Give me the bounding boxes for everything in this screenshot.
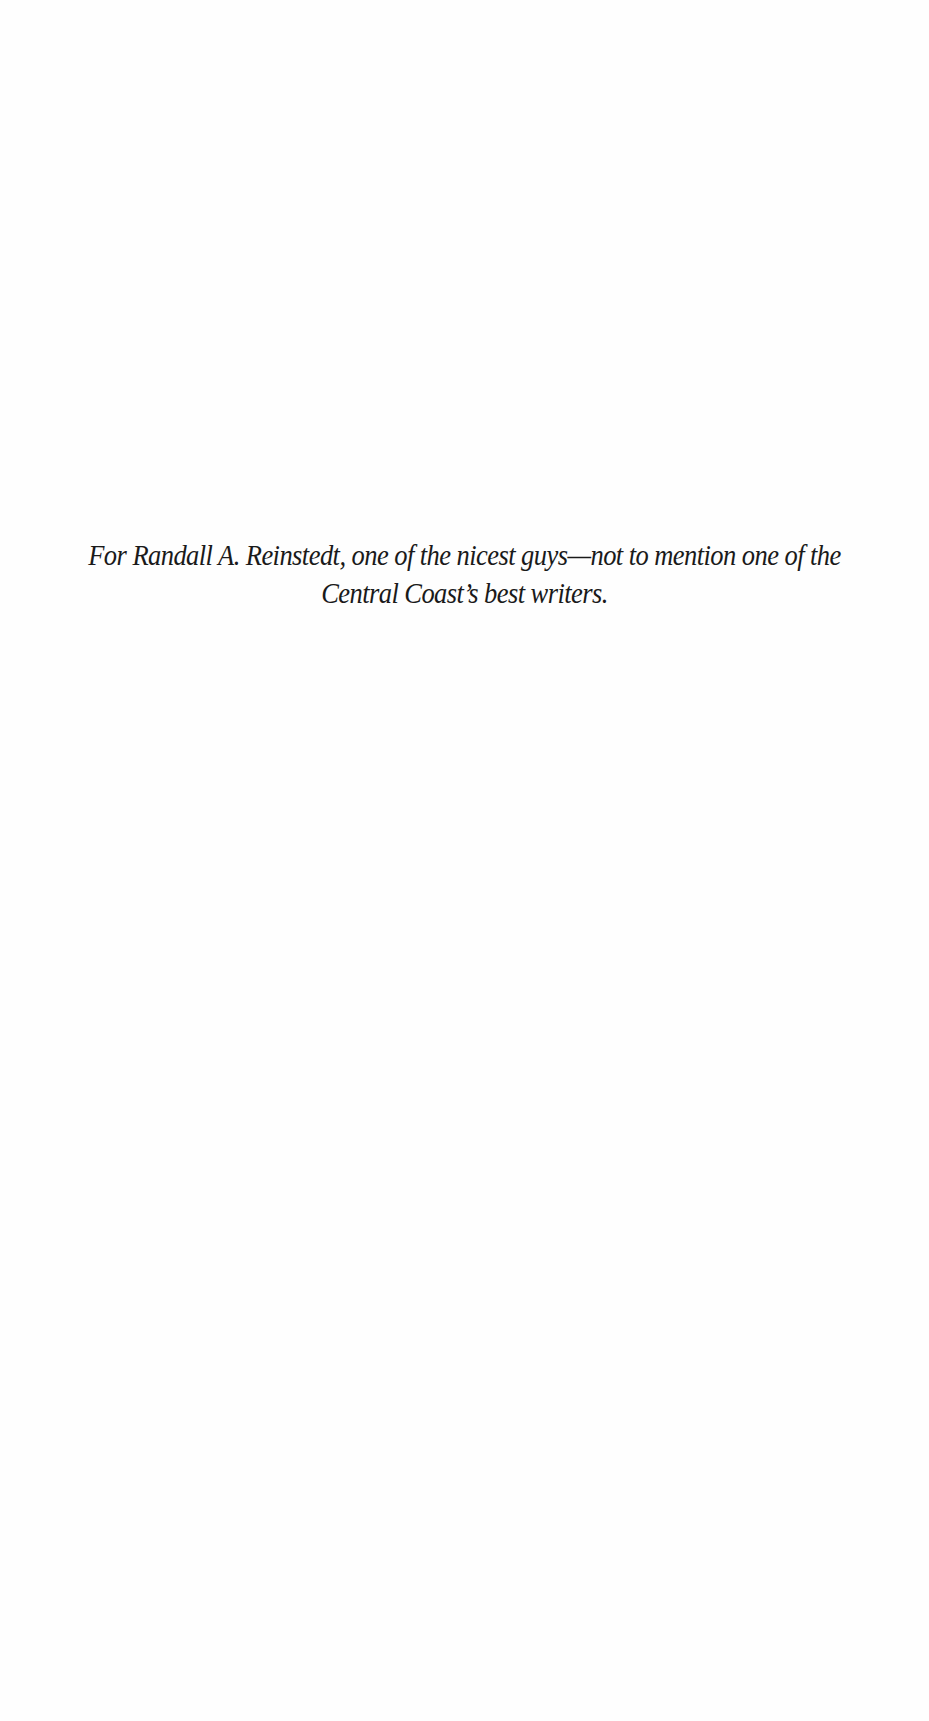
dedication-text: For Randall A. Reinstedt, one of the nic… bbox=[70, 537, 860, 613]
book-page: For Randall A. Reinstedt, one of the nic… bbox=[0, 0, 929, 1721]
